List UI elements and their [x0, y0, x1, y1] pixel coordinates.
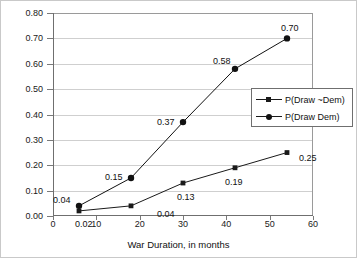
gridline: [53, 140, 313, 141]
x-axis-tick-label: 40: [211, 220, 241, 229]
data-point-label: 0.25: [299, 154, 317, 163]
legend-item-1[interactable]: P(Draw Dem): [256, 109, 340, 125]
y-axis-tick-label: 0.40: [1, 111, 43, 120]
data-point-label: 0.70: [281, 24, 299, 33]
y-axis-tick-label: 0.60: [1, 60, 43, 69]
x-axis-tick-mark: [226, 216, 227, 220]
y-axis-tick-label: 0.10: [1, 187, 43, 196]
data-point-label: 0.58: [213, 57, 231, 66]
plot-border-left: [53, 13, 54, 216]
x-axis-tick-mark: [183, 216, 184, 220]
data-point-label: 0.04: [53, 196, 71, 205]
data-point-label: 0.13: [177, 193, 195, 202]
data-point-label: 0.02: [75, 220, 93, 229]
legend-item-label: P(Draw ~Dem): [285, 96, 345, 105]
x-axis-tick-label: 0: [38, 220, 68, 229]
data-point-label: 0.15: [105, 173, 123, 182]
data-point-label: 0.19: [225, 178, 243, 187]
data-point-label: 0.37: [157, 118, 175, 127]
gridline: [53, 64, 313, 65]
x-axis-tick-mark: [270, 216, 271, 220]
y-axis-tick-label: 0.20: [1, 161, 43, 170]
data-point-label: 0.04: [157, 210, 175, 219]
y-axis-tick-label: 0.00: [1, 212, 43, 221]
x-axis-title: War Duration, in months: [1, 239, 356, 250]
gridline: [53, 165, 313, 166]
chart-figure: 0.000.100.200.300.400.500.600.700.80 010…: [0, 0, 357, 258]
gridline: [53, 38, 313, 39]
legend-item-label: P(Draw Dem): [285, 113, 340, 122]
y-axis-tick-label: 0.70: [1, 34, 43, 43]
x-axis-tick-mark: [140, 216, 141, 220]
y-axis-tick-label: 0.80: [1, 9, 43, 18]
plot-border-top: [53, 13, 313, 14]
y-axis-tick-label: 0.30: [1, 136, 43, 145]
legend: P(Draw ~Dem) P(Draw Dem): [251, 88, 353, 127]
x-axis-tick-label: 20: [125, 220, 155, 229]
x-axis-tick-label: 50: [255, 220, 285, 229]
legend-item-0[interactable]: P(Draw ~Dem): [256, 92, 345, 108]
x-axis-tick-label: 30: [168, 220, 198, 229]
y-axis-tick-label: 0.50: [1, 85, 43, 94]
circle-marker-icon: [256, 112, 282, 122]
x-axis-tick-label: 60: [298, 220, 328, 229]
square-marker-icon: [256, 95, 282, 105]
x-axis-tick-mark: [53, 216, 54, 220]
x-axis-tick-mark: [96, 216, 97, 220]
x-axis-tick-mark: [313, 216, 314, 220]
